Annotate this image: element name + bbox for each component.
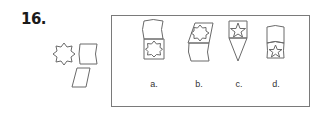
option-d-label: d. xyxy=(266,79,286,89)
eight-point-star-icon xyxy=(53,43,75,65)
option-c-label: c. xyxy=(229,79,249,89)
curved-rectangle-icon xyxy=(79,44,97,64)
question-number: 16. xyxy=(21,10,46,28)
option-c[interactable] xyxy=(224,17,260,71)
option-a[interactable] xyxy=(141,17,177,71)
option-b[interactable] xyxy=(185,17,221,71)
given-pieces xyxy=(50,38,102,88)
option-d[interactable] xyxy=(262,17,298,71)
option-b-label: b. xyxy=(189,79,209,89)
parallelogram-icon xyxy=(72,68,90,87)
option-a-label: a. xyxy=(144,79,164,89)
